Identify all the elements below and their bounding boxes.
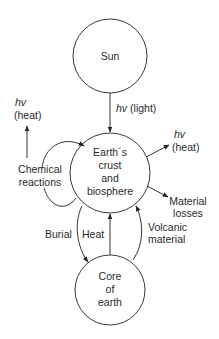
chem-heat-symbol: hv bbox=[15, 96, 27, 108]
earth-label-line-2: crust bbox=[99, 159, 122, 171]
material-label-line-2: losses bbox=[173, 207, 203, 219]
burial-label: Burial bbox=[45, 228, 72, 240]
core-label-line-1: Core bbox=[99, 270, 122, 282]
volcanic-label-line-2: material bbox=[148, 233, 185, 245]
heat-label: Heat bbox=[82, 228, 104, 240]
volcanic-arrow bbox=[133, 206, 142, 260]
core-label-line-3: earth bbox=[98, 296, 122, 308]
earth-label-line-3: and bbox=[101, 172, 119, 184]
chemical-label-line-2: reactions bbox=[19, 176, 62, 188]
earth-label-line-4: biosphere bbox=[87, 185, 133, 197]
energy-flow-diagram: Sun hv(light) Earth´s crust and biospher… bbox=[0, 0, 219, 339]
core-node: Core of earth bbox=[75, 255, 145, 325]
sun-node: Sun bbox=[73, 19, 147, 93]
chem-heat-label: (heat) bbox=[14, 109, 41, 121]
chemical-reactions-arrow-out bbox=[44, 188, 76, 206]
material-label-line-1: Material bbox=[169, 195, 206, 207]
earth-label-line-1: Earth´s bbox=[93, 146, 127, 158]
light-label: hv(light) bbox=[116, 102, 156, 114]
earth-heat-label: (heat) bbox=[172, 141, 199, 153]
sun-label: Sun bbox=[101, 50, 120, 62]
material-losses-arrow bbox=[147, 186, 168, 197]
earth-heat-symbol: hv bbox=[174, 128, 186, 140]
chemical-label-line-1: Chemical bbox=[18, 163, 62, 175]
earth-heat-arrow bbox=[146, 145, 169, 157]
core-label-line-2: of bbox=[106, 283, 115, 295]
volcanic-label-line-1: Volcanic bbox=[148, 221, 187, 233]
